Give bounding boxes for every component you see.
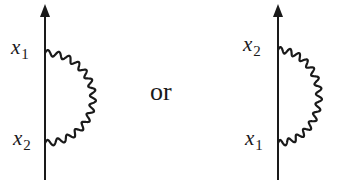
variable: x <box>11 35 20 59</box>
variable: x <box>245 126 254 150</box>
feynman-diagram-pair: x1 x2 or x2 x1 <box>0 0 341 183</box>
arrow-up-icon <box>273 4 283 17</box>
subscript: 2 <box>23 137 31 153</box>
left-bottom-vertex-label: x2 <box>13 128 30 149</box>
subscript: 1 <box>21 46 29 62</box>
right-fermion-line <box>273 4 283 180</box>
or-connector: or <box>150 79 172 105</box>
left-photon-propagator <box>45 50 96 145</box>
variable: x <box>243 32 252 56</box>
arrow-up-icon <box>40 4 50 17</box>
right-top-vertex-label: x2 <box>243 34 260 55</box>
subscript: 2 <box>253 43 261 59</box>
subscript: 1 <box>255 137 263 153</box>
right-bottom-vertex-label: x1 <box>245 128 262 149</box>
left-fermion-line <box>40 4 50 180</box>
variable: x <box>13 126 22 150</box>
right-photon-propagator <box>278 47 322 145</box>
left-top-vertex-label: x1 <box>11 37 28 58</box>
